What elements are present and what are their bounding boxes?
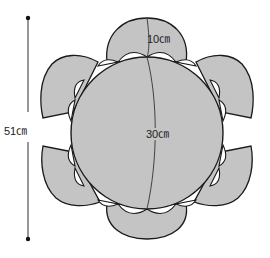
petal-depth-label: 10㎝ <box>147 33 170 45</box>
dimension-end-dot-top <box>26 16 30 20</box>
center-diameter-label: 30㎝ <box>146 128 169 140</box>
flower-diagram-svg <box>0 0 270 258</box>
flower-diagram: 51㎝ 30㎝ 10㎝ <box>0 0 270 258</box>
dimension-end-dot-bottom <box>26 237 30 241</box>
overall-height-label: 51㎝ <box>4 125 27 137</box>
